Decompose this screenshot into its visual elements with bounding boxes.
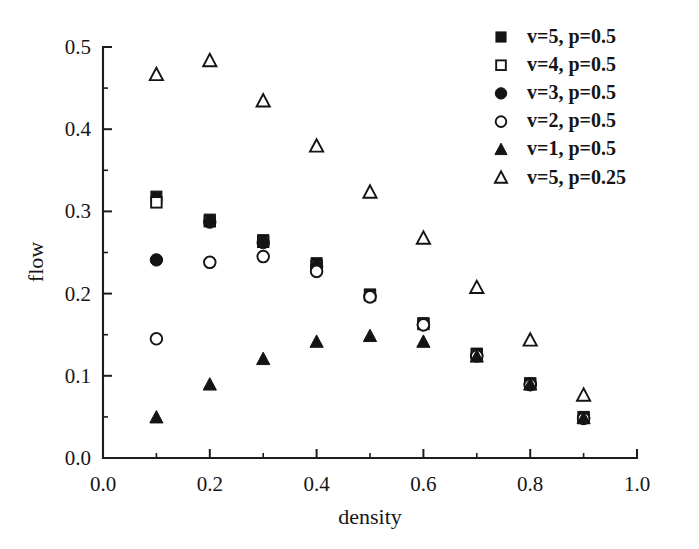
y-tick-label: 0.4: [65, 117, 92, 141]
data-point: [151, 333, 163, 345]
data-point: [204, 216, 216, 228]
data-point: [150, 68, 163, 80]
data-point: [363, 329, 376, 341]
scatter-plot-figure: 0.00.20.40.60.81.00.00.10.20.30.40.5 v=5…: [0, 0, 699, 549]
legend-item: v=1, p=0.5: [495, 137, 616, 160]
data-point: [363, 185, 376, 197]
legend-item-label: v=3, p=0.5: [527, 81, 616, 104]
data-point: [417, 335, 430, 347]
legend-item-label: v=2, p=0.5: [527, 109, 616, 132]
legend: v=5, p=0.5v=4, p=0.5v=3, p=0.5v=2, p=0.5…: [495, 25, 626, 189]
data-point: [203, 54, 216, 66]
legend-filled-square-icon: [496, 32, 506, 42]
data-point: [524, 333, 537, 345]
data-point: [150, 254, 162, 266]
data-point: [203, 378, 216, 390]
x-tick-label: 0.8: [517, 472, 543, 496]
y-tick-label: 0.0: [65, 446, 91, 470]
legend-item: v=5, p=0.25: [495, 166, 626, 189]
data-point: [417, 231, 430, 243]
legend-item-label: v=4, p=0.5: [527, 53, 616, 76]
data-point: [418, 319, 430, 331]
x-tick-label: 0.0: [90, 472, 116, 496]
data-point: [257, 352, 270, 364]
legend-filled-triangle-icon: [495, 143, 507, 154]
legend-item: v=3, p=0.5: [495, 81, 616, 104]
data-points: [150, 54, 590, 425]
data-point: [311, 266, 323, 278]
legend-item-label: v=5, p=0.25: [527, 166, 626, 189]
x-tick-label: 1.0: [624, 472, 650, 496]
y-tick-label: 0.1: [65, 364, 91, 388]
plot-canvas: 0.00.20.40.60.81.00.00.10.20.30.40.5 v=5…: [0, 0, 699, 549]
data-point: [364, 291, 376, 303]
data-point: [151, 197, 162, 208]
x-tick-label: 0.2: [197, 472, 223, 496]
legend-item: v=5, p=0.5: [496, 25, 616, 48]
legend-open-circle-icon: [496, 116, 507, 127]
legend-item-label: v=1, p=0.5: [527, 137, 616, 160]
legend-item-label: v=5, p=0.5: [527, 25, 616, 48]
data-point: [150, 411, 163, 423]
series-3: [150, 216, 590, 424]
legend-open-square-icon: [496, 60, 506, 70]
x-tick-label: 0.4: [303, 472, 330, 496]
x-tick-label: 0.6: [410, 472, 436, 496]
series-2: [151, 197, 589, 423]
x-axis-title: density: [338, 504, 402, 529]
legend-item: v=2, p=0.5: [496, 109, 616, 132]
data-point: [470, 281, 483, 293]
data-point: [310, 139, 323, 151]
series-1: [151, 191, 589, 422]
data-point: [204, 257, 216, 269]
legend-open-triangle-icon: [495, 171, 507, 182]
y-axis-title: flow: [23, 242, 48, 282]
data-point: [310, 335, 323, 347]
legend-item: v=4, p=0.5: [496, 53, 616, 76]
data-point: [257, 236, 269, 248]
legend-filled-circle-icon: [495, 88, 506, 99]
axis-tick-labels: 0.00.20.40.60.81.00.00.10.20.30.40.5: [65, 35, 650, 496]
y-tick-label: 0.3: [65, 199, 91, 223]
data-point: [257, 251, 269, 263]
y-tick-label: 0.2: [65, 282, 91, 306]
y-tick-label: 0.5: [65, 35, 91, 59]
data-point: [257, 94, 270, 106]
data-point: [577, 388, 590, 400]
